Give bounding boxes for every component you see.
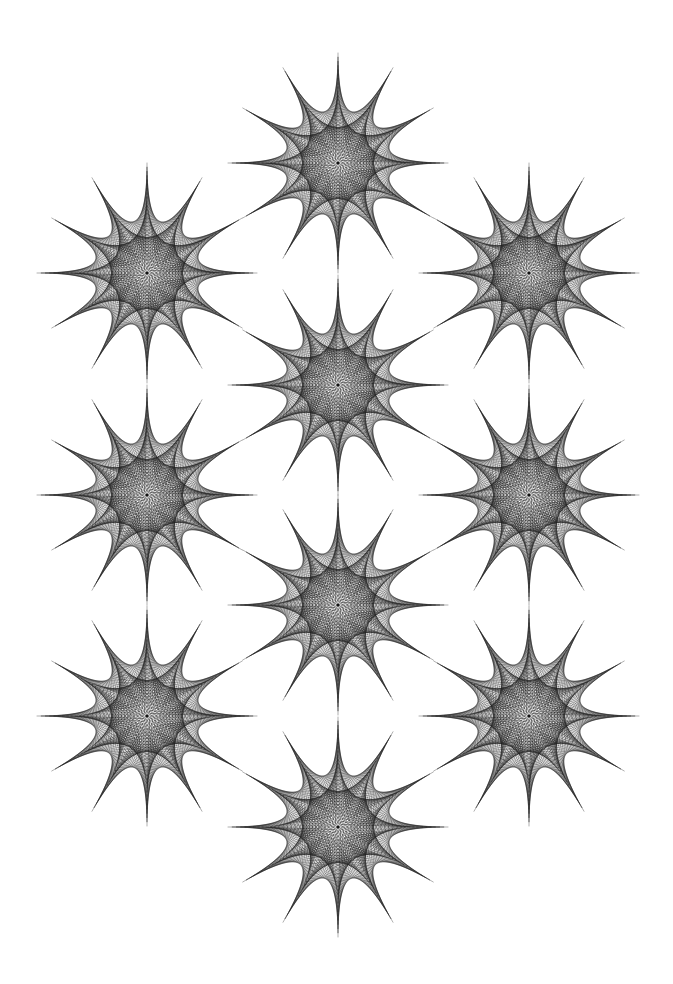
star-center-dot [145, 714, 148, 717]
string-art-artboard [0, 0, 673, 984]
star-center-dot [336, 383, 339, 386]
star-center-dot [527, 271, 530, 274]
star-center-dot [145, 271, 148, 274]
star-center-dot [145, 493, 148, 496]
star-center-dot [527, 714, 530, 717]
star-pattern-canvas [0, 0, 673, 984]
star-center-dot [336, 825, 339, 828]
star-center-dot [527, 493, 530, 496]
star-center-dot [336, 161, 339, 164]
star-center-dot [336, 603, 339, 606]
